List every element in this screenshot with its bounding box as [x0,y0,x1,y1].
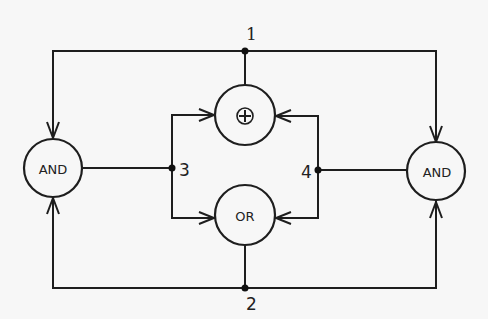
node-label-1: 1 [246,24,257,44]
junction-node-3 [169,165,176,172]
logic-diagram: AND OR AND 1 2 3 4 [0,0,488,319]
wire-node3 [82,115,215,218]
gate-or-bottom: OR [215,185,275,245]
gate-and-right: AND [407,142,465,200]
junction-node-4 [315,167,322,174]
gate-label: AND [39,162,68,177]
node-label-3: 3 [179,160,190,180]
junction-node-2 [242,285,249,292]
wire-node4 [275,116,407,218]
diagram-svg: AND OR AND 1 2 3 4 [0,0,488,319]
gate-and-left: AND [24,139,82,197]
gate-label: OR [235,209,254,224]
node-label-2: 2 [246,294,257,314]
node-label-4: 4 [301,162,312,182]
circled-plus-icon [237,108,253,124]
junction-node-1 [242,48,249,55]
gate-xor-top [215,85,275,145]
gate-label: AND [423,165,452,180]
